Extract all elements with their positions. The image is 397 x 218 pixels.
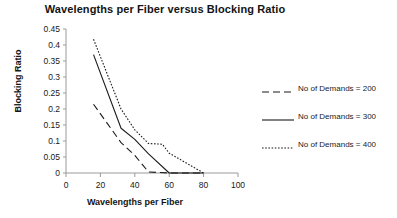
y-tick-label: 0.4	[48, 40, 60, 50]
legend-line-swatch	[262, 83, 294, 93]
series-line	[94, 39, 204, 173]
x-tick-label: 20	[96, 180, 106, 190]
y-tick-label: 0.05	[43, 152, 60, 162]
x-tick-label: 100	[231, 180, 245, 190]
legend-item-label: No of Demands = 200	[298, 84, 376, 93]
x-axis-tick-labels: 020406080100	[64, 180, 246, 190]
y-tick-label: 0.2	[48, 104, 60, 114]
x-tick-label: 0	[64, 180, 69, 190]
legend-item-label: No of Demands = 400	[298, 140, 376, 149]
y-axis-label: Blocking Ratio	[13, 31, 23, 131]
axis-tick-marks	[63, 29, 238, 177]
legend-item[interactable]: No of Demands = 400	[262, 130, 397, 158]
y-tick-label: 0.45	[43, 24, 60, 34]
x-tick-label: 40	[130, 180, 140, 190]
y-tick-label: 0.35	[43, 56, 60, 66]
legend-line-swatch	[262, 139, 294, 149]
axis-lines	[66, 29, 238, 173]
chart-figure: Wavelengths per Fiber versus Blocking Ra…	[0, 0, 397, 218]
x-axis-label: Wavelengths per Fiber	[40, 197, 230, 207]
x-tick-label: 80	[199, 180, 209, 190]
y-tick-label: 0.3	[48, 72, 60, 82]
chart-legend: No of Demands = 200No of Demands = 300No…	[262, 74, 397, 158]
y-tick-label: 0.1	[48, 136, 60, 146]
series-line	[94, 55, 204, 173]
legend-item[interactable]: No of Demands = 300	[262, 102, 397, 130]
y-tick-label: 0	[55, 168, 60, 178]
y-tick-label: 0.25	[43, 88, 60, 98]
y-tick-label: 0.15	[43, 120, 60, 130]
legend-line-swatch	[262, 111, 294, 121]
data-series-lines	[94, 39, 204, 173]
series-line	[94, 104, 204, 173]
legend-item-label: No of Demands = 300	[298, 112, 376, 121]
y-axis-tick-labels: 00.050.10.150.20.250.30.350.40.45	[43, 24, 60, 178]
legend-item[interactable]: No of Demands = 200	[262, 74, 397, 102]
x-tick-label: 60	[164, 180, 174, 190]
